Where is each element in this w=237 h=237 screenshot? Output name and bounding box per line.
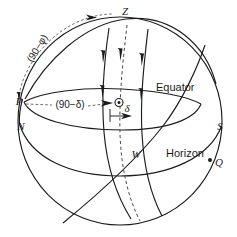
label-pole: P bbox=[15, 95, 23, 107]
label-north: N bbox=[16, 120, 25, 132]
diurnal-circle-left bbox=[103, 28, 131, 219]
diagram-canvas: Z P N S W Q Equator Horizon (90−φ) (90−δ… bbox=[0, 0, 237, 237]
label-colatitude: (90−φ) bbox=[24, 32, 49, 63]
arrowhead-diurnal-left-lower bbox=[100, 85, 105, 98]
diurnal-circle-star-path bbox=[120, 25, 140, 221]
label-west: W bbox=[131, 148, 141, 160]
celestial-sphere-figure: Z P N S W Q Equator Horizon (90−φ) (90−δ… bbox=[0, 0, 237, 237]
label-equator: Equator bbox=[156, 81, 195, 93]
label-horizon: Horizon bbox=[166, 147, 204, 159]
label-south: S bbox=[217, 120, 223, 132]
star-object-marker bbox=[115, 99, 123, 107]
q-point-marker bbox=[208, 158, 212, 162]
arrowhead-star-path-upper bbox=[118, 48, 123, 61]
label-point-q: Q bbox=[215, 156, 223, 168]
label-polar-distance: (90−δ) bbox=[55, 99, 84, 110]
label-declination: δ bbox=[124, 102, 130, 114]
diurnal-circle-right bbox=[141, 29, 162, 216]
arrowhead-diurnal-right-upper bbox=[139, 53, 144, 66]
label-zenith: Z bbox=[122, 5, 129, 17]
